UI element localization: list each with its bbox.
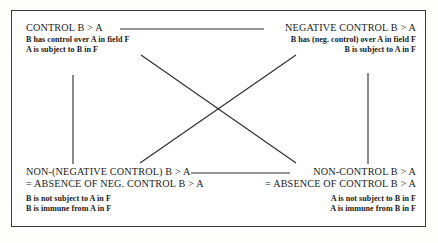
- corner-bottom-left: NON-(NEGATIVE CONTROL) B > A = ABSENCE O…: [26, 166, 204, 213]
- corner-top-right-detail-1: B has (neg. control) over A in field F: [285, 35, 416, 45]
- corner-top-right: NEGATIVE CONTROL B > A B has (neg. contr…: [285, 22, 416, 54]
- corner-top-right-detail-2: B is subject to A in F: [285, 45, 416, 55]
- corner-top-right-heading: NEGATIVE CONTROL B > A: [285, 22, 416, 34]
- corner-bottom-left-heading-2: = ABSENCE OF NEG. CONTROL B > A: [26, 178, 204, 190]
- corner-bottom-left-detail-1: B is not subject to A in F: [26, 194, 204, 204]
- corner-top-left: CONTROL B > A B has control over A in fi…: [26, 22, 130, 54]
- corner-bottom-right: NON-CONTROL B > A = ABSENCE OF CONTROL B…: [265, 166, 416, 213]
- corner-bottom-right-detail-2: A is immune from B in F: [265, 204, 416, 214]
- corner-bottom-right-detail-1: A is not subject to B in F: [265, 194, 416, 204]
- corner-top-left-heading: CONTROL B > A: [26, 22, 130, 34]
- corner-top-left-detail-2: A is subject to B in F: [26, 45, 130, 55]
- corner-bottom-left-detail-2: B is immune from A in F: [26, 204, 204, 214]
- corner-bottom-right-heading: NON-CONTROL B > A: [265, 166, 416, 178]
- corner-top-left-detail-1: B has control over A in field F: [26, 35, 130, 45]
- corner-bottom-right-heading-2: = ABSENCE OF CONTROL B > A: [265, 178, 416, 190]
- corner-bottom-left-heading: NON-(NEGATIVE CONTROL) B > A: [26, 166, 204, 178]
- semiotic-square-diagram: CONTROL B > A B has control over A in fi…: [0, 0, 438, 243]
